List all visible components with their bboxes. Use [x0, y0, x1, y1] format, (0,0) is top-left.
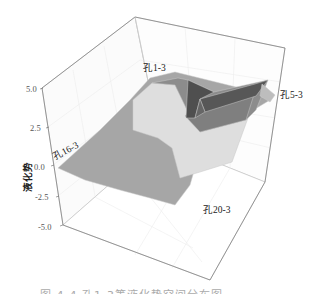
z-tick-0: 0.0 — [34, 162, 45, 172]
z-tick-5: 5.0 — [26, 84, 37, 94]
z-tick-neg-2-5: -2.5 — [35, 192, 48, 202]
point-label-5-3: 孔5-3 — [280, 90, 303, 100]
z-tick-neg-5: -5.0 — [38, 222, 51, 232]
z-axis-label: 液化势 — [22, 162, 33, 192]
surface-3d-chart: 5.0 2.5 0.0 -2.5 -5.0 液化势 孔1-3 孔5-3 孔16-… — [0, 0, 317, 294]
point-label-1-3: 孔1-3 — [143, 63, 166, 73]
point-label-20-3: 孔20-3 — [203, 205, 231, 215]
figure-caption: 图 4-4 孔1-3等液化势空间分布图 — [40, 286, 280, 294]
z-tick-2-5: 2.5 — [30, 123, 41, 133]
